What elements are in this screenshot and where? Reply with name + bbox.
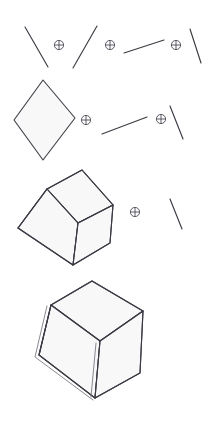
segment-c — [124, 40, 164, 53]
operator-6 — [130, 207, 139, 216]
figure-row-1 — [25, 26, 201, 68]
figure-row-3 — [18, 170, 182, 265]
segment-d — [190, 29, 201, 63]
figure-row-2 — [14, 80, 183, 160]
operator-1 — [54, 40, 63, 49]
rhombus-shape — [14, 80, 75, 160]
segment-b — [73, 26, 97, 68]
cube-large — [35, 281, 143, 400]
cube-small — [18, 170, 113, 265]
operator-5 — [156, 114, 165, 123]
segment-e — [102, 117, 147, 134]
segment-a — [25, 27, 48, 67]
segment-f — [170, 106, 183, 139]
segment-g — [170, 199, 182, 229]
operator-2 — [105, 40, 114, 49]
operator-4 — [81, 115, 90, 124]
figure-page: 4Geometric and Solid Foundations — [0, 0, 214, 423]
operator-3 — [171, 40, 180, 49]
figure-row-4 — [35, 281, 143, 400]
geometry-figure — [0, 0, 214, 423]
